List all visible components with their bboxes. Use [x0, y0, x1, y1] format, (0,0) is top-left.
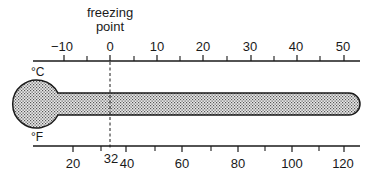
celsius-unit-label: °C: [31, 65, 45, 79]
thermometer-diagram: freezing point −10 0 10 20 30 40 50 °C: [0, 0, 366, 181]
celsius-tick-label: 10: [150, 39, 164, 54]
fahrenheit-unit-label: °F: [31, 130, 43, 144]
fahrenheit-tick-label: 20: [66, 156, 80, 171]
freezing-point-label-line1: freezing: [87, 5, 133, 20]
celsius-scale: −10 0 10 20 30 40 50 °C: [31, 39, 360, 79]
fahrenheit-tick-label-freezing: 32: [104, 151, 118, 166]
fahrenheit-scale: °F 20 32 40 60 80 100 120: [31, 130, 360, 171]
fahrenheit-tick-label: 100: [281, 156, 303, 171]
fahrenheit-tick-label: 40: [120, 156, 134, 171]
celsius-tick-label: 20: [196, 39, 210, 54]
freezing-point-label-line2: point: [96, 19, 125, 34]
celsius-tick-label: 40: [289, 39, 303, 54]
thermometer-body: [13, 80, 360, 128]
celsius-tick-label: 0: [106, 39, 113, 54]
thermometer: [13, 80, 360, 128]
fahrenheit-tick-label: 120: [332, 156, 354, 171]
fahrenheit-tick-label: 60: [175, 156, 189, 171]
celsius-tick-label: −10: [51, 39, 73, 54]
celsius-tick-label: 30: [243, 39, 257, 54]
fahrenheit-tick-label: 80: [231, 156, 245, 171]
celsius-tick-label: 50: [336, 39, 350, 54]
